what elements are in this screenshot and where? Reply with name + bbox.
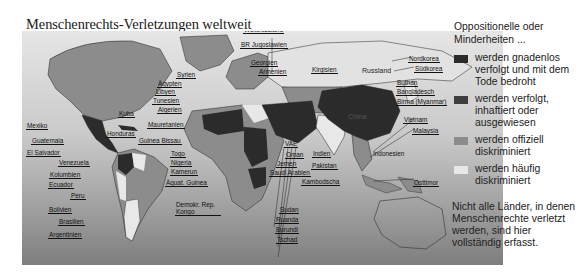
country-label: Algerien xyxy=(157,106,182,114)
legend-label: werden gnadenlos verfolgt und mit dem To… xyxy=(475,52,579,88)
country-label: Togo xyxy=(170,150,186,158)
country-label: VAE xyxy=(284,140,298,148)
country-label: Argentinien xyxy=(48,231,82,239)
country-label: Tunesien xyxy=(152,97,180,105)
country-label: Libyen xyxy=(155,88,176,96)
country-label: Georgien xyxy=(250,59,278,67)
world-map: Russland China xyxy=(22,31,503,265)
country-label: Mauretanien xyxy=(147,121,185,129)
country-label: Birma (Myanmar) xyxy=(396,98,447,106)
country-label: Brasilien xyxy=(58,218,85,226)
legend-label: werden verfolgt, inhaftiert oder ausgewi… xyxy=(475,93,579,129)
country-label: Ägypten xyxy=(157,80,182,88)
country-label: Nordkorea xyxy=(408,55,440,63)
label-russland: Russland xyxy=(362,67,391,74)
country-label: Kolumbien xyxy=(49,171,81,179)
country-label: Armenien xyxy=(258,68,287,76)
legend-swatch xyxy=(454,96,468,104)
country-label: Südkorea xyxy=(414,65,443,73)
legend-heading: Oppositionelle oder Minderheiten ... xyxy=(454,20,579,46)
country-label: Mexiko xyxy=(26,122,48,130)
country-label: Ecuador xyxy=(48,181,74,189)
country-label: Oman xyxy=(285,151,304,159)
country-label: El Salvador xyxy=(26,149,61,157)
country-label: Venezuela xyxy=(58,159,90,167)
country-label: Ruanda xyxy=(275,216,299,224)
country-label: Weißrussland xyxy=(243,31,284,34)
country-label: Kirgisien xyxy=(311,66,338,74)
country-label: Guinea Bissau xyxy=(138,137,182,145)
country-label: Bolivien xyxy=(48,206,72,214)
country-label: Honduras xyxy=(106,130,136,138)
country-label: Vietnam xyxy=(403,116,428,124)
country-label: Guatemala xyxy=(31,137,64,145)
country-label: Peru xyxy=(70,192,86,200)
country-label: Indien xyxy=(312,150,331,158)
country-label: Äquat. Guinea xyxy=(165,179,208,187)
country-label: Pakistan xyxy=(311,162,338,170)
country-label: Osttimor xyxy=(413,179,439,187)
country-label: Kambodscha xyxy=(301,178,340,186)
country-label: Kuba xyxy=(118,110,135,118)
country-label: Bangladesch xyxy=(396,88,435,96)
country-label: Saudi Arabien xyxy=(269,169,311,177)
legend-item-severe: werden gnadenlos verfolgt und mit dem To… xyxy=(454,52,579,88)
disclaimer-note: Nicht alle Länder, in denen Menschenrech… xyxy=(452,201,580,249)
legend-item-official: werden offiziell diskriminiert xyxy=(454,134,579,158)
legend-item-frequent: werden häufig diskriminiert xyxy=(454,163,579,187)
country-label: Syrien xyxy=(176,71,196,79)
legend-label: werden häufig diskriminiert xyxy=(475,163,579,187)
country-label: BR Jugoslawien xyxy=(240,41,288,49)
legend-swatch xyxy=(454,166,468,174)
country-label: Tschad xyxy=(276,236,298,244)
country-label: Nigeria xyxy=(170,159,192,167)
country-label: Demokr. Rep. Kongo xyxy=(175,201,221,216)
country-label: Jemen xyxy=(276,160,297,168)
legend-label: werden offiziell diskriminiert xyxy=(475,134,579,158)
country-label: Burundi xyxy=(275,226,299,234)
country-label: Malaysia xyxy=(412,127,439,135)
legend-item-persecuted: werden verfolgt, inhaftiert oder ausgewi… xyxy=(454,93,579,129)
country-label: Buthan xyxy=(396,79,418,87)
country-label: Sudan xyxy=(279,206,299,214)
label-china: China xyxy=(348,113,366,120)
country-label: Kamerun xyxy=(170,168,198,176)
country-label: Indonesien xyxy=(372,150,405,157)
legend-swatch xyxy=(454,137,468,145)
legend-swatch xyxy=(454,55,468,63)
